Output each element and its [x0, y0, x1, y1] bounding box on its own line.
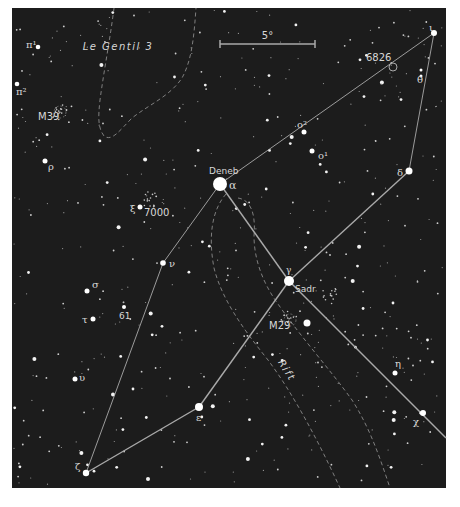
- background-star: [408, 36, 410, 38]
- background-star: [197, 149, 200, 152]
- background-star: [143, 158, 147, 162]
- background-star: [246, 399, 247, 400]
- background-star: [325, 211, 326, 212]
- background-star: [265, 188, 268, 191]
- background-star: [25, 152, 26, 153]
- background-star: [405, 416, 407, 418]
- star-upsilon: [73, 377, 78, 382]
- background-star: [351, 279, 355, 283]
- background-star: [380, 265, 381, 266]
- cluster-star: [296, 316, 298, 318]
- background-star: [422, 155, 423, 156]
- background-star: [208, 245, 211, 248]
- background-star: [391, 65, 392, 66]
- background-star: [359, 58, 362, 61]
- background-star: [255, 228, 256, 229]
- background-star: [314, 347, 315, 348]
- background-star: [68, 167, 70, 169]
- cluster-star: [148, 200, 150, 202]
- background-star: [442, 267, 443, 268]
- background-star: [49, 57, 50, 58]
- background-star: [387, 262, 388, 263]
- background-star: [185, 121, 186, 122]
- background-star: [133, 15, 135, 17]
- background-star: [417, 281, 419, 283]
- background-star: [32, 54, 34, 56]
- background-star: [220, 76, 221, 77]
- background-star: [23, 420, 25, 422]
- background-star: [94, 358, 95, 359]
- background-star: [296, 243, 297, 244]
- cluster-star: [335, 289, 337, 291]
- background-star: [307, 231, 310, 234]
- background-star: [87, 369, 89, 371]
- background-star: [229, 401, 230, 402]
- background-star: [434, 411, 435, 412]
- background-star: [233, 343, 234, 344]
- background-star: [178, 247, 179, 248]
- background-star: [289, 69, 290, 70]
- background-star: [289, 142, 292, 145]
- background-star: [325, 270, 326, 271]
- deneb-label: α: [229, 179, 237, 192]
- background-star: [205, 88, 207, 90]
- background-star: [174, 187, 175, 188]
- background-star: [20, 276, 21, 277]
- background-star: [396, 85, 397, 86]
- background-star: [393, 356, 394, 357]
- cluster-star: [60, 108, 62, 110]
- background-star: [287, 448, 288, 449]
- cluster-star: [147, 198, 149, 200]
- background-star: [319, 330, 320, 331]
- background-star: [361, 218, 362, 219]
- background-star: [191, 53, 192, 54]
- background-star: [323, 83, 324, 84]
- star-zeta: [83, 470, 89, 476]
- background-star: [174, 435, 175, 436]
- background-star: [99, 125, 100, 126]
- background-star: [407, 442, 409, 444]
- background-star: [166, 173, 167, 174]
- cluster-star: [334, 290, 336, 292]
- background-star: [52, 37, 53, 38]
- background-star: [186, 441, 188, 443]
- background-star: [39, 436, 41, 438]
- background-star: [22, 444, 24, 446]
- background-star: [319, 163, 322, 166]
- background-star: [172, 284, 173, 285]
- background-star: [184, 19, 186, 21]
- background-star: [122, 428, 125, 431]
- background-star: [357, 245, 361, 249]
- background-star: [437, 222, 439, 224]
- background-star: [358, 400, 359, 401]
- background-star: [97, 20, 99, 22]
- background-star: [238, 33, 239, 34]
- background-star: [102, 290, 104, 292]
- background-star: [99, 63, 103, 67]
- background-star: [173, 169, 175, 171]
- star-rho: [43, 159, 48, 164]
- background-star: [349, 409, 350, 410]
- background-star: [29, 209, 30, 210]
- background-star: [441, 45, 442, 46]
- background-star: [441, 101, 442, 102]
- background-star: [433, 180, 434, 181]
- background-star: [303, 303, 304, 304]
- background-star: [285, 424, 288, 427]
- background-star: [277, 116, 279, 118]
- background-star: [19, 198, 20, 199]
- background-star: [363, 95, 366, 98]
- background-star: [18, 463, 20, 465]
- background-star: [350, 104, 351, 105]
- background-star: [211, 404, 215, 408]
- star-chi: [420, 410, 426, 416]
- background-star: [163, 160, 164, 161]
- cluster-star: [61, 112, 63, 114]
- background-star: [406, 73, 407, 74]
- background-star: [259, 86, 260, 87]
- background-star: [318, 386, 319, 387]
- background-star: [119, 321, 120, 322]
- background-star: [127, 174, 128, 175]
- background-star: [263, 470, 264, 471]
- background-star: [307, 333, 309, 335]
